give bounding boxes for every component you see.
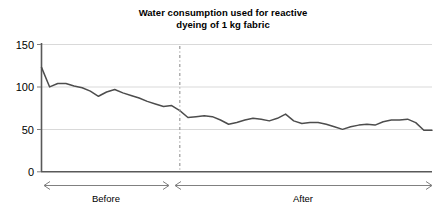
y-axis-label-0: 0 bbox=[28, 166, 34, 178]
chart-container: Water consumption used for reactive dyei… bbox=[0, 0, 446, 209]
region-label-before: Before bbox=[92, 193, 120, 204]
y-axis-label-100: 100 bbox=[16, 81, 34, 93]
y-axis-label-50: 50 bbox=[22, 124, 34, 136]
y-axis-label-150: 150 bbox=[16, 39, 34, 51]
y-axis-ticks bbox=[37, 45, 41, 172]
region-label-after: After bbox=[293, 193, 313, 204]
data-line-water-consumption bbox=[42, 67, 433, 130]
gridlines bbox=[41, 45, 432, 130]
chart-plot: 150 100 50 0 Before After bbox=[0, 0, 446, 209]
after-region-arrow bbox=[175, 182, 432, 190]
before-region-arrow bbox=[44, 182, 169, 190]
